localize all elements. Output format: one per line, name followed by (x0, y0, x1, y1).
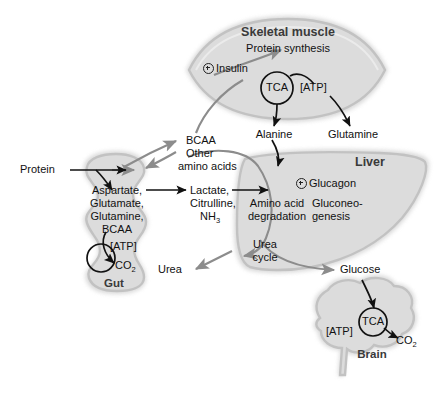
organ-label-skeletal-muscle: Skeletal muscle (241, 25, 335, 39)
gut-metabolite-bcaa: BCAA (102, 223, 132, 235)
liver-urea-cycle-l2: cycle (252, 251, 277, 263)
output-citrulline: Citrulline, (190, 197, 236, 209)
edge-urea-cycle-to-urea (196, 251, 232, 269)
plus-icon-glucagon (296, 178, 307, 189)
output-glucose: Glucose (340, 263, 380, 275)
liver-gluconeogenesis-l1: Gluconeo- (312, 197, 363, 209)
organ-label-liver: Liver (355, 155, 385, 169)
output-ammonia: NH3 (200, 210, 220, 226)
gut-metabolite-glutamate: Glutamate, (90, 197, 144, 209)
metabolite-glutamine: Glutamine (328, 128, 378, 140)
brain-co2-label: CO2 (396, 334, 417, 350)
organ-label-brain: Brain (357, 348, 386, 361)
input-protein: Protein (20, 163, 55, 175)
edge-bcaa-to-gut (146, 152, 176, 168)
liver-amino-acid-degradation-l1: Amino acid (250, 197, 304, 209)
liver-amino-acid-degradation-l2: degradation (248, 210, 306, 222)
output-lactate: Lactate, (190, 184, 229, 196)
liver-urea-cycle-l1: Urea (253, 238, 277, 250)
liver-gluconeogenesis-l2: genesis (312, 210, 350, 222)
muscle-tca-label: TCA (266, 81, 288, 93)
gut-metabolite-glutamine: Glutamine, (90, 210, 143, 222)
plus-icon-insulin (203, 63, 214, 74)
gut-atp-label: [ATP] (110, 240, 137, 252)
liver-glucagon-label: Glucagon (296, 177, 356, 190)
diagram-canvas: Skeletal muscle Protein synthesis Insuli… (0, 0, 445, 393)
pool-bcaa: BCAA (186, 134, 216, 146)
organ-label-gut: Gut (104, 277, 124, 290)
muscle-atp-label: [ATP] (300, 81, 327, 93)
output-urea: Urea (158, 263, 182, 275)
brain-atp-label: [ATP] (326, 325, 353, 337)
gut-co2-label: CO2 (115, 259, 136, 275)
muscle-protein-synthesis-label: Protein synthesis (246, 42, 330, 54)
pool-other: Other (186, 147, 214, 159)
metabolite-alanine: Alanine (256, 128, 293, 140)
pool-amino-acids: amino acids (178, 160, 237, 172)
muscle-insulin-label: Insulin (203, 62, 248, 75)
brain-tca-label: TCA (362, 315, 384, 327)
gut-metabolite-aspartate: Aspartate, (92, 184, 142, 196)
